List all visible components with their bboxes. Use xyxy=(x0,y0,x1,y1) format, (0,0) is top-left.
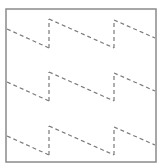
sawtooth-diagram xyxy=(0,0,160,168)
diagram-frame xyxy=(6,9,156,162)
